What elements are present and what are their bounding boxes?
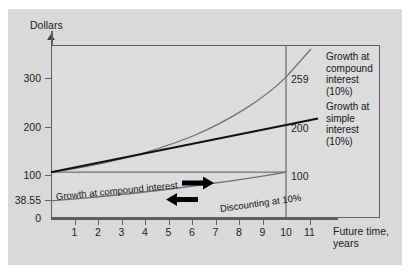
discount-direction-arrow-icon (166, 193, 198, 206)
x-tick-2 (98, 219, 99, 225)
x-tick-1 (75, 219, 76, 225)
x-tick-label-5: 5 (156, 226, 181, 238)
value-label-200: 200 (291, 122, 309, 134)
value-label-259: 259 (291, 73, 309, 85)
figure-panel: Dollars 300 200 100 38.55 0 (8, 9, 402, 265)
x-tick-label-3: 3 (109, 226, 134, 238)
x-tick-9 (263, 219, 264, 225)
x-tick-label-8: 8 (227, 226, 252, 238)
x-tick-label-4: 4 (133, 226, 158, 238)
x-tick-6 (192, 219, 193, 225)
x-axis-title: Future time, years (333, 225, 389, 249)
compound-series-label: Growth at compound interest (10%) (326, 51, 373, 97)
x-tick-label-1: 1 (62, 226, 87, 238)
x-tick-8 (239, 219, 240, 225)
x-tick-label-6: 6 (180, 226, 205, 238)
x-tick-11 (310, 219, 311, 225)
x-tick-label-11: 11 (297, 226, 322, 238)
simple-interest-line (51, 125, 286, 172)
x-tick-label-7: 7 (203, 226, 228, 238)
value-label-100: 100 (291, 170, 309, 182)
x-tick-label-9: 9 (250, 226, 275, 238)
x-tick-3 (122, 219, 123, 225)
x-tick-label-2: 2 (86, 226, 111, 238)
compound-interest-curve (51, 77, 286, 172)
simple-series-label: Growth at simple interest (10%) (326, 101, 369, 147)
x-tick-4 (145, 219, 146, 225)
x-tick-label-10: 10 (274, 226, 299, 238)
x-tick-5 (169, 219, 170, 225)
x-tick-7 (216, 219, 217, 225)
growth-direction-arrow-icon (182, 177, 214, 190)
